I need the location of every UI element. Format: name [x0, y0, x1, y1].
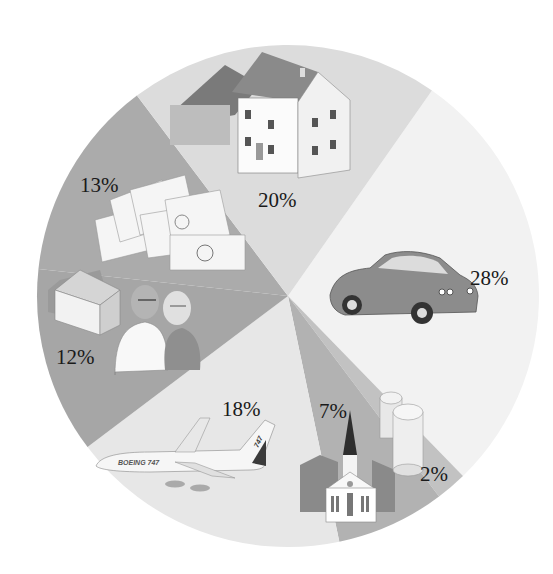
label-car-pct: 28% — [470, 268, 509, 289]
label-house-pct: 20% — [258, 190, 297, 211]
pie-chart: BOEING 747 747 20% 13% 28% 12% 18% — [0, 0, 553, 574]
label-coins-pct: 2% — [420, 464, 448, 485]
airplane-text: BOEING 747 — [118, 459, 160, 466]
label-church-pct: 7% — [319, 401, 347, 422]
label-money-pct: 13% — [80, 175, 119, 196]
label-retirement-pct: 12% — [56, 347, 95, 368]
title-fragment — [0, 0, 553, 6]
label-travel-pct: 18% — [222, 399, 261, 420]
